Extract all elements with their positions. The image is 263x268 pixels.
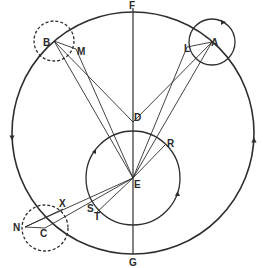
point-label-E: E [134,179,141,190]
point-label-D: D [134,112,141,123]
point-label-X: X [59,198,66,209]
point-label-C: C [40,228,47,239]
point-label-A: A [211,37,218,48]
arrow-icon [175,191,180,196]
point-label-B: B [43,37,50,48]
arrow-icon [251,137,256,142]
epicycle-diagram: FGDEBACMLNXSTR [0,0,263,268]
point-label-N: N [13,222,20,233]
point-label-G: G [129,257,137,268]
point-label-T: T [94,211,100,222]
point-label-L: L [184,43,190,54]
point-label-S: S [87,203,94,214]
arrow-icon [9,135,14,140]
line-NX [25,209,63,227]
point-label-R: R [167,138,175,149]
point-label-F: F [129,0,135,11]
point-label-M: M [77,46,85,57]
